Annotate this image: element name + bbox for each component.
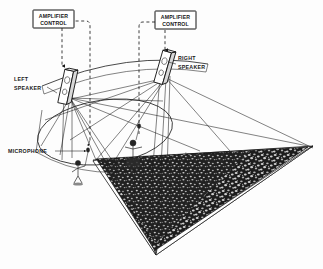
amp-right-label-line2: CONTROL	[162, 21, 189, 27]
vocalist-arm-right	[133, 147, 142, 149]
amp-right-to-mic-link	[139, 22, 155, 120]
vocalist-arm-left	[125, 147, 133, 149]
ray-r1	[166, 78, 313, 148]
performer-leg-left	[74, 176, 78, 183]
left-speaker[interactable]	[58, 67, 78, 105]
ceiling-arc-right-cap	[206, 64, 208, 72]
performer-arm-right	[78, 166, 85, 168]
vocalist-head	[130, 140, 136, 146]
vocalist-skirt	[125, 158, 141, 166]
amplifier-control-left[interactable]: AMPLIFIER CONTROL	[33, 10, 74, 28]
mic-stand-pole	[85, 152, 88, 166]
sound-system-diagram: AMPLIFIER CONTROL AMPLIFIER CONTROL LEFT…	[0, 0, 323, 269]
microphone-label: MICROPHONE	[8, 148, 86, 154]
vocalist-shadow	[127, 165, 139, 169]
vocalist-microphone	[137, 124, 140, 129]
performer-shadow	[73, 182, 83, 185]
left-speaker-label-line2: SPEAKER	[14, 85, 41, 91]
microphone-capsule	[86, 148, 89, 152]
diagram-canvas: AMPLIFIER CONTROL AMPLIFIER CONTROL LEFT…	[0, 0, 323, 269]
right-speaker-label-line1: RIGHT	[178, 55, 196, 61]
performer-arm-left	[72, 168, 78, 172]
ray-r4	[110, 78, 166, 168]
performer-leg-right	[78, 176, 82, 183]
performer-figure-left	[72, 148, 90, 186]
ray-r2	[166, 78, 230, 151]
performer-head	[75, 160, 80, 165]
amp-left-label-line1: AMPLIFIER	[39, 13, 68, 19]
right-speaker[interactable]	[154, 48, 176, 85]
right-speaker-label-line2: SPEAKER	[178, 64, 205, 70]
microphone-label-text: MICROPHONE	[8, 148, 47, 154]
left-speaker-label: LEFT SPEAKER	[14, 76, 57, 93]
ray-r7	[62, 78, 166, 101]
left-speaker-stand	[62, 95, 64, 160]
amplifier-control-right[interactable]: AMPLIFIER CONTROL	[155, 11, 196, 29]
ray-r5	[70, 78, 166, 140]
vocalist-mic-pole	[136, 128, 139, 140]
left-speaker-label-line1: LEFT	[14, 76, 29, 82]
amp-left-label-line2: CONTROL	[40, 20, 67, 26]
amp-right-label-line1: AMPLIFIER	[161, 14, 190, 20]
ray-l1	[70, 98, 313, 147]
ceiling-arc-left-cap	[42, 86, 44, 94]
